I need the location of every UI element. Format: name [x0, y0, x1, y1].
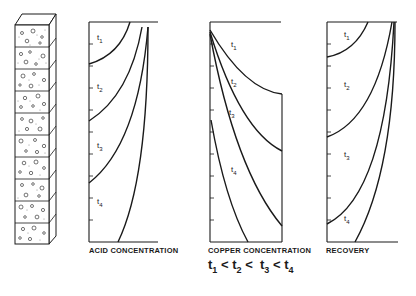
recovery-panel: [327, 22, 398, 242]
acid-curve-t1: [89, 22, 130, 64]
copper-panel-title: COPPER CONCENTRATION: [208, 246, 311, 255]
time-relation: t1 < t2 < t3 < t4: [208, 257, 294, 275]
copper-label-t2: t2: [231, 77, 237, 88]
acid-label-t1: t1: [97, 33, 103, 44]
copper-label-t1: t1: [231, 40, 237, 51]
copper-label-t3: t3: [229, 108, 235, 119]
copper-panel: [210, 22, 282, 242]
acid-curve-t4: [118, 27, 148, 242]
copper-curve-t4: [211, 120, 248, 242]
recovery-curve-t4: [355, 22, 395, 242]
acid-label-t2: t2: [97, 82, 103, 93]
acid-panel-title: ACID CONCENTRATION: [89, 246, 178, 255]
copper-label-t4: t4: [231, 165, 237, 176]
ore-column: [15, 14, 56, 244]
acid-curve-t3: [89, 27, 148, 183]
recovery-label-t1: t1: [344, 30, 350, 41]
recovery-label-t3: t3: [344, 150, 350, 161]
recovery-panel-title: RECOVERY: [326, 246, 369, 255]
acid-label-t3: t3: [97, 141, 103, 152]
acid-label-t4: t4: [97, 197, 103, 208]
recovery-label-t4: t4: [344, 214, 350, 225]
recovery-curve-t3: [327, 22, 394, 224]
recovery-label-t2: t2: [344, 80, 350, 91]
acid-panel: [89, 22, 158, 242]
